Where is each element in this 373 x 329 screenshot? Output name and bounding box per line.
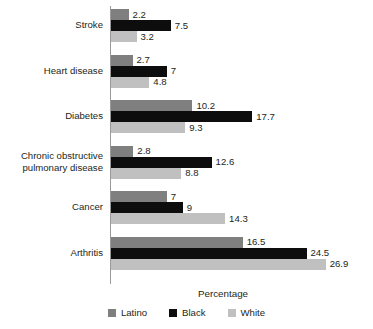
bar-row: 10.2 [111, 100, 373, 111]
bar-value-label: 7 [171, 192, 176, 202]
bar-white [111, 259, 326, 270]
bar-latino [111, 237, 243, 248]
category-label: Arthritis [0, 247, 103, 260]
legend-swatch-icon [228, 309, 236, 317]
grouped-bar-chart: Stroke2.27.53.2Heart disease2.774.8Diabe… [0, 0, 373, 329]
bar-row: 7.5 [111, 20, 373, 31]
bar-value-label: 2.7 [137, 55, 150, 65]
bar-white [111, 122, 185, 133]
bar-value-label: 9.3 [189, 123, 202, 133]
legend-swatch-icon [108, 309, 116, 317]
bar-row: 2.2 [111, 9, 373, 20]
bar-latino [111, 100, 192, 111]
bar-row: 7 [111, 191, 373, 202]
bar-black [111, 20, 171, 31]
category-group: Cancer7914.3 [0, 191, 373, 224]
bar-black [111, 111, 252, 122]
bar-row: 12.6 [111, 157, 373, 168]
bar-value-label: 3.2 [141, 32, 154, 42]
bar-value-label: 17.7 [256, 112, 275, 122]
category-label: Cancer [0, 201, 103, 214]
bar-value-label: 4.8 [153, 77, 166, 87]
bar-row: 2.8 [111, 146, 373, 157]
bar-row: 3.2 [111, 31, 373, 42]
legend-label: Latino [121, 308, 147, 318]
bar-row: 16.5 [111, 237, 373, 248]
chart-legend: LatinoBlackWhite [0, 308, 373, 318]
bar-row: 9 [111, 202, 373, 213]
category-group: Stroke2.27.53.2 [0, 9, 373, 42]
category-group: Arthritis16.524.526.9 [0, 237, 373, 270]
bar-black [111, 248, 307, 259]
bar-latino [111, 9, 129, 20]
bar-row: 17.7 [111, 111, 373, 122]
bar-row: 8.8 [111, 168, 373, 179]
category-label: Diabetes [0, 110, 103, 123]
bar-white [111, 168, 181, 179]
bar-white [111, 213, 225, 224]
bar-value-label: 2.8 [137, 146, 150, 156]
bar-black [111, 157, 212, 168]
bar-row: 2.7 [111, 55, 373, 66]
x-axis-title: Percentage [111, 288, 335, 299]
plot-area: Stroke2.27.53.2Heart disease2.774.8Diabe… [0, 0, 373, 288]
bar-value-label: 7.5 [175, 21, 188, 31]
bar-row: 9.3 [111, 122, 373, 133]
bar-black [111, 66, 167, 77]
bar-latino [111, 191, 167, 202]
bar-value-label: 14.3 [229, 214, 248, 224]
category-group: Heart disease2.774.8 [0, 55, 373, 88]
category-group: Chronic obstructive pulmonary disease2.8… [0, 146, 373, 179]
bar-latino [111, 55, 133, 66]
category-label: Stroke [0, 19, 103, 32]
legend-label: White [241, 308, 266, 318]
bar-value-label: 16.5 [247, 237, 266, 247]
bar-white [111, 77, 149, 88]
bar-black [111, 202, 183, 213]
legend-item-white[interactable]: White [228, 308, 266, 318]
bar-row: 4.8 [111, 77, 373, 88]
bar-value-label: 9 [187, 203, 192, 213]
bar-row: 24.5 [111, 248, 373, 259]
legend-item-black[interactable]: Black [169, 308, 205, 318]
bar-row: 26.9 [111, 259, 373, 270]
category-group: Diabetes10.217.79.3 [0, 100, 373, 133]
bar-white [111, 31, 137, 42]
category-label: Heart disease [0, 65, 103, 78]
bar-value-label: 2.2 [133, 10, 146, 20]
category-label: Chronic obstructive pulmonary disease [0, 150, 103, 175]
bar-value-label: 8.8 [185, 168, 198, 178]
bar-value-label: 10.2 [196, 101, 215, 111]
bar-value-label: 26.9 [330, 259, 349, 269]
legend-item-latino[interactable]: Latino [108, 308, 147, 318]
bar-value-label: 12.6 [216, 157, 235, 167]
bar-value-label: 7 [171, 66, 176, 76]
bar-value-label: 24.5 [311, 248, 330, 258]
bar-row: 14.3 [111, 213, 373, 224]
bar-row: 7 [111, 66, 373, 77]
bar-latino [111, 146, 133, 157]
legend-swatch-icon [169, 309, 177, 317]
legend-label: Black [182, 308, 205, 318]
